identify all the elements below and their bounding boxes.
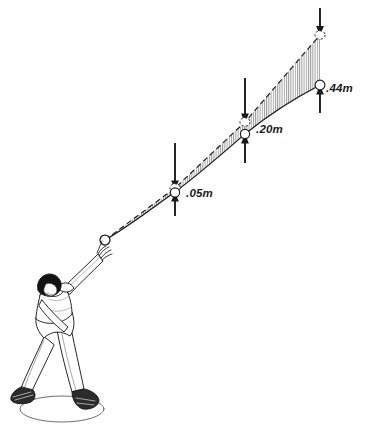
measurement-label-1: .05m: [186, 187, 213, 199]
ideal-position-2: [240, 118, 250, 126]
measurement-label-3: .44m: [326, 82, 353, 94]
ball-position-2: [240, 129, 249, 138]
figure-root: .05m .20m .44m: [0, 0, 365, 432]
ideal-position-3: [315, 31, 325, 39]
measurement-label-2: .20m: [256, 123, 283, 135]
ball-position-1: [170, 188, 179, 197]
trajectory-diagram: .05m .20m .44m: [0, 0, 365, 432]
ball-position-3: [315, 80, 325, 90]
